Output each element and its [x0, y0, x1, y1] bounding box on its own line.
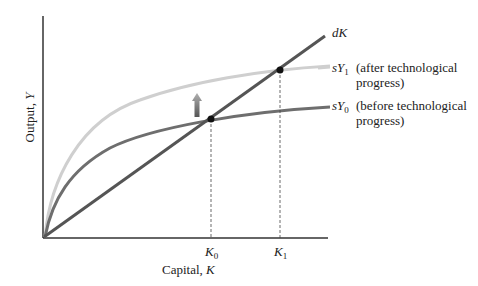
K1-tick-label: K1: [274, 244, 287, 264]
K0-tick-label: K0: [205, 244, 218, 264]
y-axis-label: Output, Y: [22, 83, 37, 153]
x-axis-label: Capital, K: [162, 262, 215, 277]
dK-label: dK: [332, 25, 347, 40]
sY0-curve: [45, 107, 330, 237]
shift-up-arrow-icon: [192, 93, 202, 117]
sY1-legend-stub: [318, 67, 330, 68]
diagram-canvas: [0, 0, 478, 286]
sY0-label: sY0: [332, 98, 349, 118]
K0-equilibrium-point: [208, 116, 215, 123]
K1-equilibrium-point: [277, 67, 284, 74]
sY1-curve: [45, 66, 330, 237]
sY0-description: (before technological progress): [356, 98, 467, 128]
sY1-description: (after technological progress): [356, 60, 457, 90]
sY1-label: sY1: [332, 60, 349, 80]
